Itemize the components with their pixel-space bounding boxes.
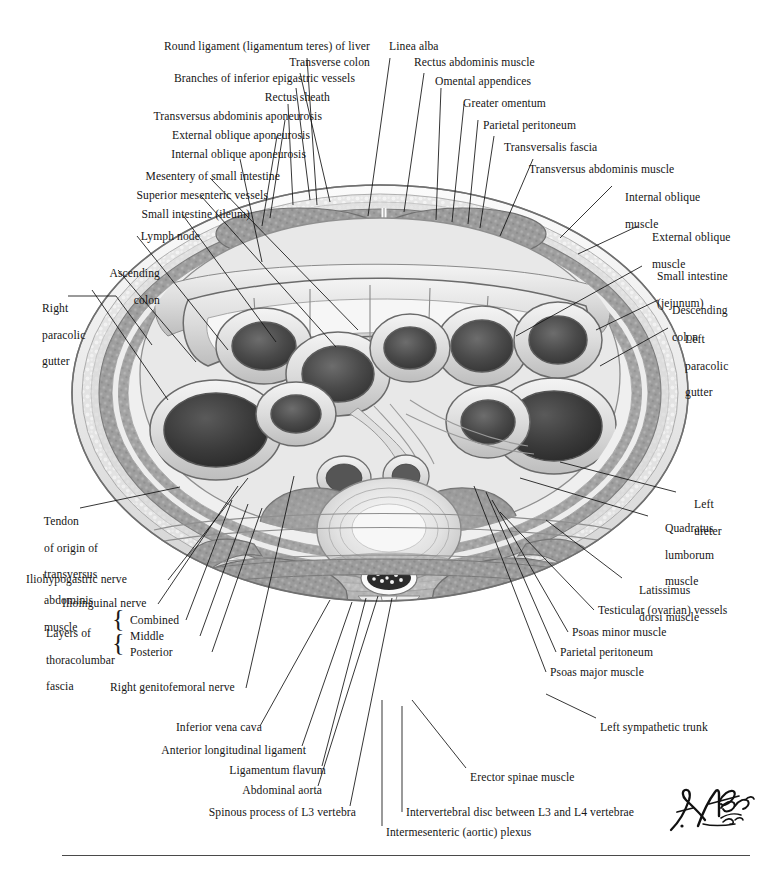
label-line: paracolic bbox=[42, 329, 85, 342]
label-greater-omentum: Greater omentum bbox=[463, 97, 683, 110]
footer-rule bbox=[62, 855, 750, 856]
label-spinous-process-l3: Spinous process of L3 vertebra bbox=[30, 806, 356, 819]
label-line: thoracolumbar bbox=[46, 654, 115, 667]
label-small-intestine-ileum: Small intestine (ileum) bbox=[10, 208, 250, 221]
label-line: Quadratus bbox=[665, 522, 714, 535]
label-line: paracolic bbox=[685, 360, 728, 373]
label-line: fascia bbox=[46, 680, 74, 693]
label-right-genitofemoral-nerve: Right genitofemoral nerve bbox=[110, 681, 290, 694]
label-line: Tendon bbox=[44, 515, 79, 528]
label-layer-combined: Combined bbox=[130, 614, 240, 627]
netter-anatomy-plate: Round ligament (ligamentum teres) of liv… bbox=[0, 0, 763, 872]
label-transversalis-fascia: Transversalis fascia bbox=[504, 141, 724, 154]
label-parietal-peritoneum-top: Parietal peritoneum bbox=[483, 119, 703, 132]
label-rectus-abdominis-muscle: Rectus abdominis muscle bbox=[414, 56, 634, 69]
label-intermesenteric-aortic-plexus: Intermesenteric (aortic) plexus bbox=[386, 826, 686, 839]
label-line: Layers of bbox=[46, 627, 91, 640]
label-erector-spinae-muscle: Erector spinae muscle bbox=[470, 771, 650, 784]
label-line: Latissimus bbox=[639, 584, 690, 597]
label-left-paracolic-gutter: Left paracolic gutter bbox=[673, 320, 763, 412]
label-internal-oblique-aponeurosis: Internal oblique aponeurosis bbox=[10, 148, 306, 161]
label-mesentery-of-small-intestine: Mesentery of small intestine bbox=[10, 170, 280, 183]
label-line: of origin of bbox=[44, 542, 98, 555]
label-layer-posterior: Posterior bbox=[130, 646, 240, 659]
label-linea-alba: Linea alba bbox=[389, 40, 589, 53]
label-line: Internal oblique bbox=[625, 191, 700, 204]
label-transversus-abdominis-aponeurosis: Transversus abdominis aponeurosis bbox=[10, 110, 322, 123]
label-testicular-ovarian-vessels: Testicular (ovarian) vessels bbox=[598, 604, 763, 617]
label-layer-middle: Middle bbox=[130, 630, 240, 643]
label-rectus-sheath: Rectus sheath bbox=[10, 91, 330, 104]
label-anterior-longitudinal-ligament: Anterior longitudinal ligament bbox=[30, 744, 306, 757]
label-lymph-node: Lymph node bbox=[10, 230, 200, 243]
label-transverse-colon: Transverse colon bbox=[10, 56, 370, 69]
label-round-ligament: Round ligament (ligamentum teres) of liv… bbox=[10, 40, 370, 53]
label-external-oblique-aponeurosis: External oblique aponeurosis bbox=[10, 129, 310, 142]
label-line: Right bbox=[42, 302, 68, 315]
brace-upper: { bbox=[112, 612, 124, 625]
label-ilioinguinal-nerve: Ilioinguinal nerve bbox=[62, 597, 212, 610]
label-transversus-abdominis-muscle: Transversus abdominis muscle bbox=[529, 163, 759, 176]
netter-signature bbox=[665, 782, 757, 838]
label-line: Left bbox=[685, 333, 705, 346]
label-psoas-major-muscle: Psoas major muscle bbox=[550, 666, 720, 679]
label-right-paracolic-gutter: Right paracolic gutter bbox=[30, 289, 140, 381]
label-omental-appendices: Omental appendices bbox=[435, 75, 655, 88]
label-line: Small intestine bbox=[657, 270, 728, 283]
label-abdominal-aorta: Abdominal aorta bbox=[30, 784, 322, 797]
label-left-sympathetic-trunk: Left sympathetic trunk bbox=[600, 721, 763, 734]
label-superior-mesenteric-vessels: Superior mesenteric vessels bbox=[10, 189, 268, 202]
label-line: gutter bbox=[685, 386, 713, 399]
label-inferior-epigastric-vessels: Branches of inferior epigastric vessels bbox=[10, 72, 355, 85]
label-psoas-minor-muscle: Psoas minor muscle bbox=[572, 626, 732, 639]
label-parietal-peritoneum-bottom: Parietal peritoneum bbox=[560, 646, 720, 659]
brace-lower: { bbox=[112, 636, 124, 649]
label-line: gutter bbox=[42, 355, 70, 368]
label-line: lumborum bbox=[665, 549, 714, 562]
label-line: External oblique bbox=[652, 231, 731, 244]
label-line: Descending bbox=[672, 304, 728, 317]
label-line: Ascending bbox=[110, 267, 161, 280]
label-inferior-vena-cava: Inferior vena cava bbox=[30, 721, 262, 734]
label-iliohypogastric-nerve: Iliohypogastric nerve bbox=[26, 573, 176, 586]
label-ligamentum-flavum: Ligamentum flavum bbox=[30, 764, 326, 777]
